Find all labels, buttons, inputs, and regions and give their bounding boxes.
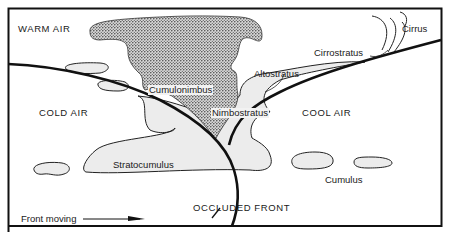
nimbostratus-label: Nimbostratus [211,108,269,118]
front-moving-label: Front moving [21,214,76,224]
cumulus-cloud-2 [354,157,392,168]
cirrus-wisp-1 [372,16,387,50]
stratocumulus-label: Stratocumulus [113,160,174,170]
front-moving-arrow-head [128,216,145,221]
occluded-front-label: OCCLUDED FRONT [193,203,290,213]
cumulus-label: Cumulus [325,175,363,185]
cirrus-wisp-2 [388,18,396,52]
cold-air-label: COLD AIR [39,108,88,118]
small-cloud-lower-left [34,162,70,175]
altostratus-label: Altostratus [254,69,299,79]
cirrus-label: Cirrus [402,24,427,34]
cirrostratus-label: Cirrostratus [314,48,363,58]
cumulus-cloud-1 [292,152,333,169]
warm-air-label: WARM AIR [18,24,70,34]
cool-air-label: COOL AIR [302,108,351,118]
cumulonimbus-label: Cumulonimbus [148,85,213,95]
